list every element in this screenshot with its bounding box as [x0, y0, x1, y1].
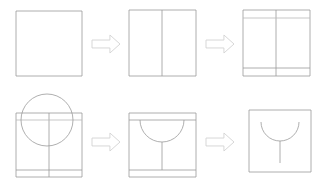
arrow-step-2-to-3 — [206, 35, 234, 53]
diagram-canvas — [0, 0, 320, 187]
square-outline — [243, 10, 310, 76]
bottom-row — [16, 94, 311, 177]
arrow-step-5-to-6 — [206, 133, 234, 151]
semicircle-arc — [140, 120, 184, 142]
arrow-step-1-to-2 — [92, 35, 120, 53]
u-arc — [261, 122, 299, 141]
step-4-square-with-circle — [16, 94, 82, 177]
right-arrow-icon — [92, 35, 120, 53]
step-2-square-with-center-line — [129, 10, 196, 76]
square-outline — [129, 10, 196, 76]
step-1-plain-square — [16, 11, 82, 76]
step-5-semicircle-trimmed — [129, 113, 196, 177]
right-arrow-icon — [206, 35, 234, 53]
right-arrow-icon — [206, 133, 234, 151]
arrow-step-4-to-5 — [92, 133, 120, 151]
step-6-final-u-profile — [249, 110, 311, 172]
right-arrow-icon — [92, 133, 120, 151]
square-outline — [16, 11, 82, 76]
top-row — [16, 10, 310, 76]
construction-diagram — [0, 0, 320, 187]
square-outline — [129, 113, 196, 177]
step-3-square-with-horizontal-lines — [243, 10, 310, 76]
